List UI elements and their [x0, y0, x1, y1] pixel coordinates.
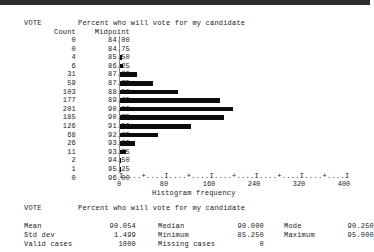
histogram-row: 3187.00 [24, 70, 354, 79]
histogram-bar-track [120, 148, 354, 157]
histogram-axis-title: Histogram frequency [152, 189, 236, 198]
histogram-bar [120, 72, 137, 77]
statistic-value: 1000 [92, 240, 136, 249]
statistics-grid: Mean90.054Median90.000Mode90.250Std dev1… [24, 222, 364, 249]
histogram-axis-ruler: I....+....I....+....I....+....I....+....… [119, 172, 350, 180]
statistic-value: 90.250 [330, 222, 374, 231]
histogram-axis-spine [119, 36, 120, 173]
histogram-bar [120, 107, 233, 112]
histogram-count-cell: 68 [24, 131, 76, 140]
statistics-output-pane: VOTEPercent who will vote for my candida… [0, 5, 370, 252]
histogram-count-cell: 0 [24, 174, 76, 183]
histogram-bar-track [120, 45, 354, 54]
histogram-bar-track [120, 36, 354, 45]
histogram-count-cell: 126 [24, 122, 76, 131]
statistics-variable-name: VOTE [24, 204, 78, 213]
histogram-bar-track [120, 88, 354, 97]
histogram-bar-track [120, 131, 354, 140]
axis-tick-label: 400 [338, 180, 351, 189]
statistics-row: Std dev1.499Minimum85.250Maximum95.000 [24, 231, 364, 240]
histogram-bar [120, 124, 191, 129]
histogram-count-cell: 26 [24, 139, 76, 148]
statistic-value: 90.000 [220, 222, 264, 231]
histogram-bar-track [120, 79, 354, 88]
histogram-row: 6892.25 [24, 131, 354, 140]
histogram-bar-track [120, 105, 354, 114]
histogram-bar [120, 141, 135, 146]
histogram-count-cell: 4 [24, 53, 76, 62]
histogram-count-cell: 103 [24, 88, 76, 97]
histogram-row: 20190.00 [24, 105, 354, 114]
histogram-row: 2693.00 [24, 139, 354, 148]
histogram-bar [120, 115, 224, 120]
histogram-report-header: VOTEPercent who will vote for my candida… [24, 19, 245, 28]
histogram-rows: 084.00084.75485.50686.253187.005987.7510… [24, 36, 354, 182]
statistics-report-header: VOTEPercent who will vote for my candida… [24, 204, 245, 213]
histogram-count-cell: 1 [24, 165, 76, 174]
histogram-count-cell: 0 [24, 36, 76, 45]
histogram-bar-track [120, 53, 354, 62]
axis-tick-label: 320 [293, 180, 306, 189]
histogram-count-cell: 31 [24, 70, 76, 79]
histogram-bar-track [120, 96, 354, 105]
histogram-count-cell: 59 [24, 79, 76, 88]
histogram-variable-name: VOTE [24, 19, 78, 28]
axis-tick-label: 0 [117, 180, 121, 189]
histogram-count-cell: 11 [24, 148, 76, 157]
histogram-variable-label: Percent who will vote for my candidate [78, 19, 245, 27]
histogram-row: 485.50 [24, 53, 354, 62]
histogram-count-cell: 6 [24, 62, 76, 71]
histogram-row: 12691.50 [24, 122, 354, 131]
axis-tick-label: 240 [248, 180, 261, 189]
statistic-label: Missing cases [158, 240, 215, 249]
histogram-bar-track [120, 156, 354, 165]
histogram-bar-track [120, 139, 354, 148]
statistics-row: Mean90.054Median90.000Mode90.250 [24, 222, 364, 231]
histogram-row: 10388.50 [24, 88, 354, 97]
statistic-label: Median [158, 222, 184, 231]
histogram-count-cell: 201 [24, 105, 76, 114]
histogram-row: 686.25 [24, 62, 354, 71]
histogram-bar [120, 81, 153, 86]
histogram-bar-track [120, 70, 354, 79]
histogram-count-cell: 0 [24, 45, 76, 54]
histogram-row: 084.75 [24, 45, 354, 54]
axis-tick-label: 80 [160, 180, 168, 189]
statistics-variable-label: Percent who will vote for my candidate [78, 204, 245, 212]
statistic-value: 1.499 [92, 231, 136, 240]
histogram-bar [120, 90, 178, 95]
histogram-row: 18590.75 [24, 113, 354, 122]
histogram-row: 084.00 [24, 36, 354, 45]
statistic-value: 90.054 [92, 222, 136, 231]
histogram-bar-track [120, 113, 354, 122]
statistic-value: 0 [220, 240, 264, 249]
statistic-label: Std dev [24, 231, 55, 240]
statistic-label: Valid cases [24, 240, 72, 249]
statistic-value: 95.000 [330, 231, 374, 240]
histogram-count-cell: 185 [24, 113, 76, 122]
statistic-label: Maximum [284, 231, 315, 240]
statistic-label: Mean [24, 222, 42, 231]
histogram-row: 17789.25 [24, 96, 354, 105]
histogram-row: 294.50 [24, 156, 354, 165]
histogram-bar [120, 133, 158, 138]
histogram-bar [120, 64, 123, 69]
histogram-bar-track [120, 122, 354, 131]
statistic-label: Minimum [158, 231, 189, 240]
statistic-label: Mode [284, 222, 302, 231]
histogram-axis-tick-labels: 080160240320400 [117, 180, 357, 189]
histogram-bar [120, 98, 220, 103]
histogram-row: 1193.75 [24, 148, 354, 157]
histogram-count-cell: 2 [24, 156, 76, 165]
histogram-row: 5987.75 [24, 79, 354, 88]
histogram-bar [120, 150, 126, 155]
axis-tick-label: 160 [203, 180, 216, 189]
statistics-row: Valid cases1000Missing cases0 [24, 240, 364, 249]
histogram-count-cell: 177 [24, 96, 76, 105]
histogram-bar-track [120, 62, 354, 71]
statistic-value: 85.250 [220, 231, 264, 240]
